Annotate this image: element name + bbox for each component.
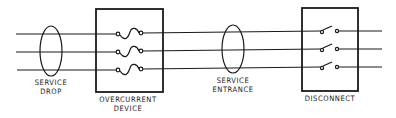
service-drop-conductors <box>16 34 116 70</box>
fuse-icons <box>116 28 143 74</box>
overcurrent-device-label-line2: DEVICE <box>114 104 143 113</box>
switch-icon <box>320 44 338 52</box>
service-drop-label-line1: SERVICE <box>35 78 68 87</box>
service-entrance-conductors <box>143 31 320 69</box>
switch-icon <box>320 26 338 34</box>
service-wiring-diagram: SERVICE DROP OVERCURRENT DEVICE SERVICE … <box>0 0 396 118</box>
overcurrent-device-label-line1: OVERCURRENT <box>99 95 157 104</box>
service-drop-label-line2: DROP <box>40 87 62 96</box>
service-entrance-label-line2: ENTRANCE <box>212 85 253 94</box>
switch-icon <box>320 62 338 70</box>
switch-icons <box>320 26 338 70</box>
service-entrance-label-line1: SERVICE <box>217 76 250 85</box>
disconnect-label: DISCONNECT <box>305 94 356 103</box>
load-conductors <box>339 31 382 67</box>
fuse-icon <box>116 46 143 56</box>
fuse-icon <box>116 28 143 38</box>
fuse-icon <box>116 64 143 74</box>
